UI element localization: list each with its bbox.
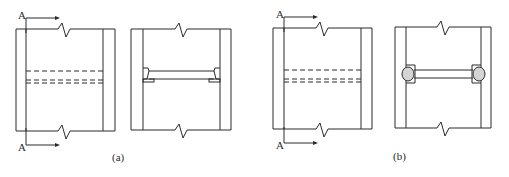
bottom-break-line [131, 124, 231, 138]
section-label-bottom: A [18, 141, 26, 153]
section-arrow-top [284, 17, 313, 32]
left-hinge-joint [402, 67, 414, 81]
arrowhead-icon [55, 16, 60, 20]
top-break-line [273, 22, 372, 36]
section-label-top: A [18, 9, 26, 21]
panel-b-section [395, 21, 491, 136]
panel-b-elevation: A A [273, 8, 372, 151]
arrowhead-icon [313, 15, 318, 19]
arrowhead-icon [313, 141, 318, 145]
top-break-line [131, 23, 231, 37]
panel-a-elevation: A A [16, 9, 115, 153]
section-arrow-top [26, 18, 55, 33]
caption-b: (b) [393, 150, 406, 163]
left-bearing-plate [143, 79, 154, 82]
right-hinge-joint [473, 67, 485, 81]
caption-a: (a) [112, 151, 125, 164]
top-break-line [395, 21, 491, 35]
diagram-canvas: A A (a) A A [0, 0, 509, 177]
section-label-bottom: A [276, 139, 284, 151]
bottom-break-line [395, 122, 491, 136]
right-haunch [214, 68, 220, 79]
left-haunch [143, 68, 149, 79]
panel-a-section [131, 23, 231, 138]
bottom-break-line [16, 125, 115, 139]
top-break-line [16, 23, 115, 37]
section-label-top: A [276, 8, 284, 20]
bottom-break-line [273, 123, 372, 137]
arrowhead-icon [55, 143, 60, 147]
right-bearing-plate [209, 79, 220, 82]
